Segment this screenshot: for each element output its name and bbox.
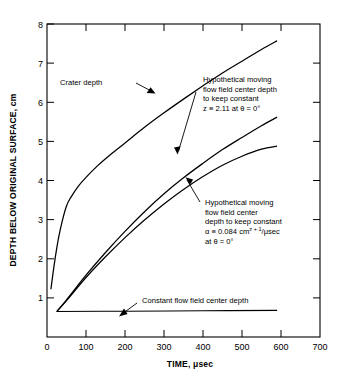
annotation-line: at θ = 0°: [205, 237, 234, 246]
x-tick-label: 400: [195, 342, 210, 352]
x-tick-label: 600: [273, 342, 288, 352]
annotation-line: to keep constant: [203, 94, 260, 103]
x-tick-label: 100: [78, 342, 93, 352]
annotation-alpha-superscript: z + 1: [249, 226, 261, 232]
svg-text:α ≡ 0.084 cmz + 1/μsec: α ≡ 0.084 cmz + 1/μsec: [205, 226, 280, 236]
annotation-crater-depth: Crater depth: [60, 78, 102, 87]
annotation-alpha-tail: /μsec: [262, 227, 281, 236]
x-axis-ticks-top: [86, 24, 281, 31]
y-tick-label: 1: [38, 293, 43, 303]
annotation-line: flow field center depth: [203, 85, 277, 94]
y-tick-label: 5: [38, 137, 43, 147]
x-tick-label: 500: [234, 342, 249, 352]
annotation-line: flow field center: [205, 208, 258, 217]
leader-lines: [119, 83, 200, 316]
y-axis-ticks-right: [313, 63, 320, 298]
y-tick-label: 3: [38, 215, 43, 225]
y-tick-label: 2: [38, 254, 43, 264]
x-axis-title: TIME, μsec: [167, 359, 213, 369]
y-axis-ticks: [47, 24, 54, 298]
y-tick-labels: 8 7 6 5 4 3 2 1: [38, 20, 43, 304]
x-axis-ticks: [86, 330, 281, 337]
annotation-line: Crater depth: [60, 78, 102, 87]
curve-constant-depth: [57, 310, 277, 311]
annotation-line: Hypothetical moving: [203, 75, 271, 84]
annotation-hypothetical-z: Hypothetical moving flow field center de…: [203, 75, 277, 113]
annotation-line: depth to keep constant: [205, 217, 283, 226]
annotation-line: z ≡ 2.11 at θ = 0°: [203, 104, 260, 113]
y-tick-label: 8: [38, 20, 43, 30]
x-tick-label: 0: [44, 342, 49, 352]
y-tick-label: 7: [38, 59, 43, 69]
crater-depth-chart: 8 7 6 5 4 3 2 1 0 100 200 300 400 500 60…: [0, 0, 347, 383]
y-axis-title: DEPTH BELOW ORIGINAL SURFACE, cm: [8, 93, 18, 266]
x-tick-label: 200: [117, 342, 132, 352]
plot-frame: [47, 24, 320, 337]
y-tick-label: 6: [38, 98, 43, 108]
annotation-line: Hypothetical moving: [205, 198, 273, 207]
x-tick-label: 300: [156, 342, 171, 352]
x-tick-labels: 0 100 200 300 400 500 600 700: [44, 342, 327, 352]
annotation-constant-depth: Constant flow field center depth: [142, 296, 248, 305]
annotation-alpha-base: α ≡ 0.084 cm: [205, 227, 249, 236]
annotation-line: Constant flow field center depth: [142, 296, 248, 305]
y-tick-label: 4: [38, 176, 43, 186]
annotation-hypothetical-alpha: Hypothetical moving flow field center de…: [205, 198, 283, 246]
x-tick-label: 700: [312, 342, 327, 352]
